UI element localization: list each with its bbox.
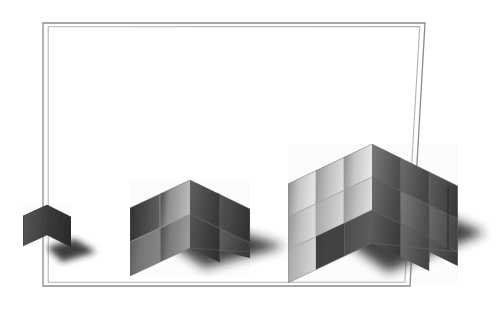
cubes-illustration (0, 0, 503, 310)
illustration-canvas: Three grey cube assemblies of increasing… (0, 0, 503, 310)
